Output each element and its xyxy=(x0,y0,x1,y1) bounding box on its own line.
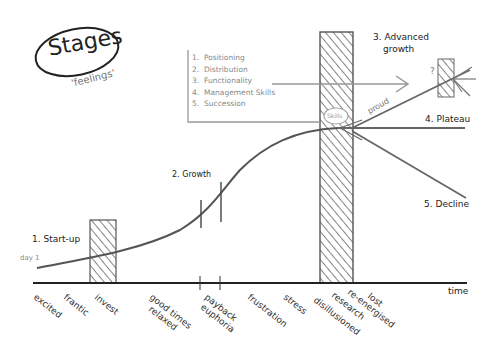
stage-growth: 2. Growth xyxy=(172,170,211,179)
focus-item: 5.Succession xyxy=(192,98,275,110)
stage-plateau: 4. Plateau xyxy=(425,114,470,124)
stage-startup: 1. Start-up xyxy=(32,234,80,244)
starburst-icon xyxy=(453,67,476,96)
growth-curve xyxy=(37,128,338,268)
focus-item: 1.Positioning xyxy=(192,52,275,64)
question-mark: ? xyxy=(430,66,435,76)
focus-item: 2.Distribution xyxy=(192,64,275,76)
decline-line xyxy=(352,131,466,198)
focus-item: 3.Functionality xyxy=(192,75,275,87)
day-one-label: day 1 xyxy=(20,254,40,262)
time-axis-label: time xyxy=(448,286,468,296)
stage-advanced-growth-line1: 3. Advanced xyxy=(373,32,429,42)
stage-advanced-growth-line2: growth xyxy=(383,44,414,54)
stage-decline: 5. Decline xyxy=(424,199,469,209)
focus-item: 4.Management Skills xyxy=(192,87,275,99)
invest-bar xyxy=(90,220,116,283)
skills-badge-label: Skills xyxy=(327,112,342,119)
focus-list: 1.Positioning 2.Distribution 3.Functiona… xyxy=(192,52,275,110)
skills-bar xyxy=(320,32,353,283)
future-bar xyxy=(438,59,454,97)
